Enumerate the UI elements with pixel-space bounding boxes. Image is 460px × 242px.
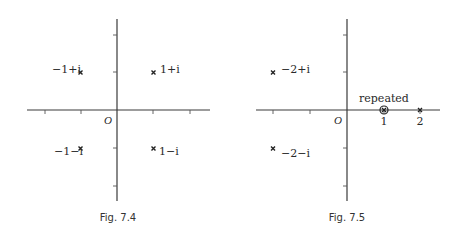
figure-canvas: O 1+i −1+i −1−i 1−i Fig. 7.4 bbox=[0, 0, 460, 242]
origin-label: O bbox=[104, 114, 112, 126]
figure-7-5: O −2+i −2−i repeated 1 2 Fig. 7.5 bbox=[256, 19, 440, 223]
tick-label-1: 1 bbox=[381, 115, 388, 128]
point-label: −2−i bbox=[281, 147, 310, 160]
repeated-annotation: repeated bbox=[359, 92, 409, 105]
tick-label-2: 2 bbox=[417, 115, 424, 128]
point-minus-2-plus-i: −2+i bbox=[271, 63, 310, 76]
point-minus-1-minus-i: −1−i bbox=[54, 145, 83, 158]
point-minus-2-minus-i: −2−i bbox=[271, 147, 310, 161]
cross-marker-icon bbox=[271, 147, 275, 151]
point-label: −1−i bbox=[54, 145, 83, 158]
point-label: 1+i bbox=[160, 63, 180, 76]
cross-marker-icon bbox=[152, 147, 156, 151]
figure-caption: Fig. 7.5 bbox=[329, 212, 365, 223]
cross-marker-icon bbox=[152, 71, 156, 75]
point-label: −1+i bbox=[52, 63, 81, 76]
point-1-plus-i: 1+i bbox=[152, 63, 181, 76]
point-1-minus-i: 1−i bbox=[152, 145, 180, 158]
cross-marker-icon bbox=[271, 71, 275, 75]
origin-label: O bbox=[334, 114, 342, 126]
figure-caption: Fig. 7.4 bbox=[100, 212, 136, 223]
point-label: −2+i bbox=[281, 63, 310, 76]
point-minus-1-plus-i: −1+i bbox=[52, 63, 83, 76]
point-label: 1−i bbox=[159, 145, 179, 158]
figure-7-4: O 1+i −1+i −1−i 1−i Fig. 7.4 bbox=[27, 19, 210, 223]
